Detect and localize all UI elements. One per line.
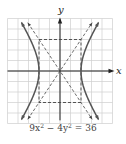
hyperbola-graph: y x 9x2 − 4y2 = 36 xyxy=(0,0,126,144)
x-axis-label: x xyxy=(116,65,122,76)
equation-caption: 9x2 − 4y2 = 36 xyxy=(29,122,97,133)
y-axis-label: y xyxy=(57,4,64,15)
